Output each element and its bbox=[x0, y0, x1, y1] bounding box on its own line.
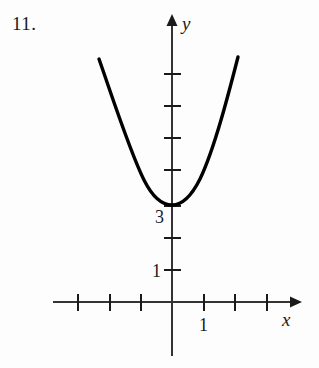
x-axis-name-label: x bbox=[281, 309, 291, 330]
x-tick-label-1: 1 bbox=[199, 315, 208, 335]
y-tick-label-3: 3 bbox=[155, 207, 164, 227]
y-axis-group bbox=[164, 14, 181, 356]
y-axis-arrowhead bbox=[167, 14, 178, 26]
x-axis-group bbox=[53, 294, 302, 311]
x-axis-arrowhead bbox=[290, 297, 302, 308]
y-tick-label-1: 1 bbox=[152, 261, 161, 281]
parabola-curve bbox=[99, 57, 238, 205]
coordinate-plane-graph: y x 3 1 1 bbox=[0, 0, 319, 368]
y-axis-name-label: y bbox=[180, 13, 191, 34]
math-figure: 11. bbox=[0, 0, 319, 368]
